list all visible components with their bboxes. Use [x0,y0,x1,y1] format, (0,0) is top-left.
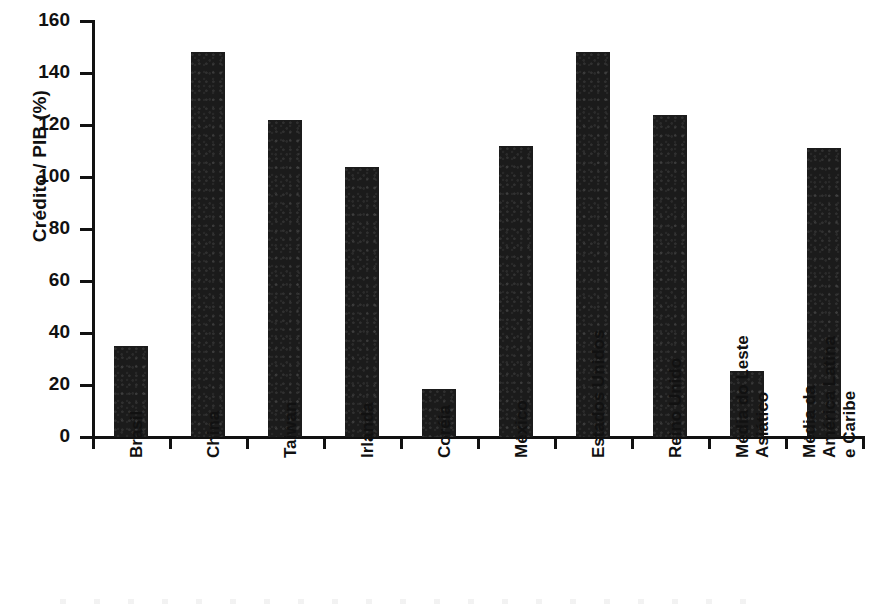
x-axis-category-label-line: Asiático [753,308,773,458]
x-axis-category-label: Reino Unido [666,358,686,458]
y-axis-tick-label: 60 [14,269,70,291]
x-axis-tick [92,436,95,449]
x-axis-tick [246,436,249,449]
x-axis-category-label-line: América Latina [820,308,840,458]
x-axis-tick [323,436,326,449]
bar [268,120,302,437]
x-axis-category-label-line: Estados Unidos [589,330,609,458]
x-axis-tick [169,436,172,449]
bar-chart: Crédito / PIB (%) 020406080100120140160 … [0,0,878,606]
x-axis-category-label-line: Média da [800,308,820,458]
y-axis-tick [80,176,93,179]
x-axis-category-label-line: Média do Leste [733,308,753,458]
x-axis-category-label: Irlanda [358,402,378,458]
bar [191,52,225,437]
x-axis-category-label: Taiwan [281,402,301,458]
x-axis-category-label-line: México [512,400,532,458]
x-axis-tick [708,436,711,449]
x-axis-category-label: Média daAmérica Latinae Caribe [800,308,860,458]
y-axis-tick-label: 100 [14,165,70,187]
x-axis-category-label: Coréia [435,405,455,458]
x-axis-category-label-line: Taiwan [281,402,301,458]
y-axis-tick-label: 40 [14,321,70,343]
bar [345,167,379,437]
x-axis-tick [400,436,403,449]
y-axis-tick-label: 80 [14,217,70,239]
bar [499,146,533,437]
y-axis-tick-label: 140 [14,61,70,83]
y-axis-tick [80,384,93,387]
x-axis-category-label: Estados Unidos [589,330,609,458]
x-axis-category-label: México [512,400,532,458]
y-axis-tick [80,228,93,231]
y-axis-tick-label: 120 [14,113,70,135]
x-axis-category-label: China [204,411,224,458]
x-axis-category-label-line: Reino Unido [666,358,686,458]
x-axis-category-label-line: e Caribe [840,308,860,458]
y-axis-tick [80,72,93,75]
x-axis-tick [631,436,634,449]
x-axis-category-label-line: Irlanda [358,402,378,458]
x-axis-category-label: Brasil [127,411,147,458]
x-axis-tick [862,436,865,449]
y-axis-tick [80,332,93,335]
y-axis-tick [80,280,93,283]
scan-artifact [60,599,760,604]
y-axis-tick-label: 160 [14,9,70,31]
y-axis-tick-label: 0 [14,425,70,447]
x-axis-tick [477,436,480,449]
y-axis-tick [80,20,93,23]
x-axis-category-label-line: China [204,411,224,458]
y-axis-tick [80,124,93,127]
x-axis-tick [554,436,557,449]
x-axis-tick [785,436,788,449]
x-axis-category-label-line: Coréia [435,405,455,458]
x-axis-category-label-line: Brasil [127,411,147,458]
y-axis-tick-label: 20 [14,373,70,395]
x-axis-category-label: Média do LesteAsiático [733,308,773,458]
